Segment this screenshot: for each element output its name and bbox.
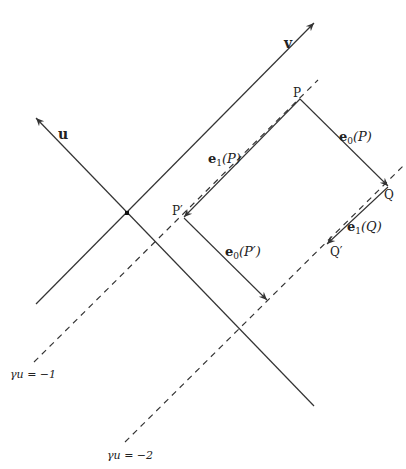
label-e0-Pprime: e0(P′) — [225, 244, 261, 261]
point-P-label: P — [293, 86, 301, 100]
origin-dot — [125, 211, 129, 215]
level-line-minus2 — [125, 165, 404, 442]
vector-e0-Pprime — [184, 218, 267, 300]
u-axis-label: u — [58, 126, 68, 142]
label-gamma-u-minus2: γu = −2 — [107, 449, 153, 462]
point-Qprime-label: Q′ — [330, 245, 343, 259]
label-gamma-u-minus1: γu = −1 — [10, 368, 56, 381]
point-Pprime-label: P′ — [172, 204, 183, 218]
label-e1-Q: e1(Q) — [347, 219, 382, 236]
label-e1-P: e1(P) — [208, 151, 241, 168]
point-Q-label: Q — [384, 188, 394, 202]
level-line-minus1 — [34, 80, 318, 362]
vector-e1-P — [184, 99, 300, 217]
label-e0-P: e0(P) — [339, 129, 372, 146]
spacetime-diagram: v u P Q P′ Q′ e0(P) e1(P) e0(P′) e1(Q) γ… — [0, 0, 406, 469]
v-axis-label: v — [283, 35, 293, 51]
